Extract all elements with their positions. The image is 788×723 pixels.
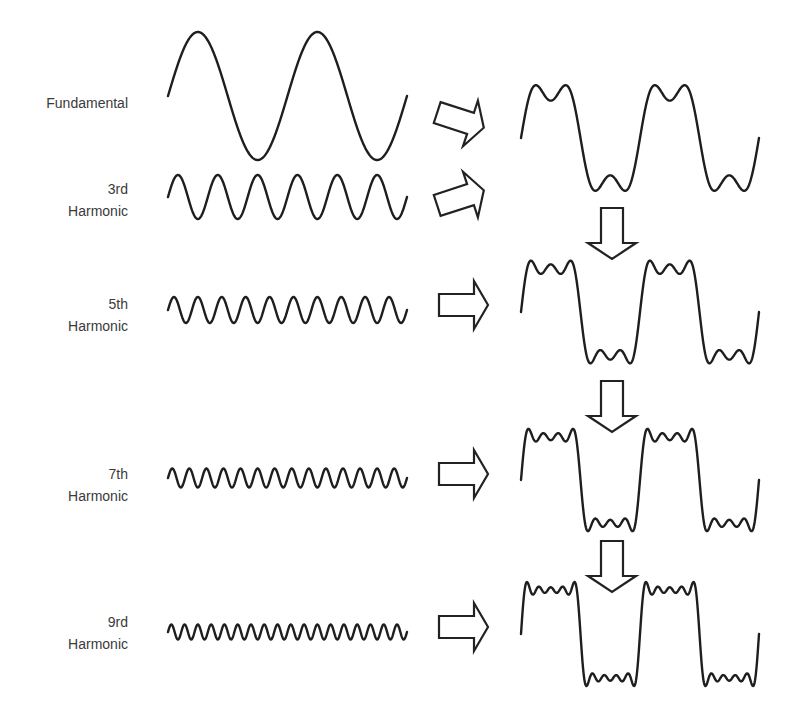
arrow-right-icon <box>434 172 484 218</box>
label-fundamental: Fundamental <box>0 92 128 114</box>
label-7th-harmonic: 7th Harmonic <box>0 463 128 507</box>
label-line: Harmonic <box>0 633 128 655</box>
arrow-right-icon <box>439 281 488 329</box>
label-line: 7th <box>0 463 128 485</box>
label-3rd-harmonic: 3rd Harmonic <box>0 178 128 222</box>
arrow-down-icon <box>588 381 636 432</box>
label-line: Harmonic <box>0 315 128 337</box>
harmonics-diagram: Fundamental 3rd Harmonic 5th Harmonic 7t… <box>0 0 788 723</box>
arrow-down-icon <box>588 208 636 259</box>
label-line: Harmonic <box>0 485 128 507</box>
label-line: 3rd <box>0 178 128 200</box>
fundamental-wave <box>168 32 407 160</box>
arrow-right-icon <box>439 450 488 498</box>
arrow-right-icon <box>434 101 484 147</box>
sum-through-7th-wave <box>521 429 759 531</box>
summed-waves <box>521 85 759 686</box>
arrow-right-icon <box>439 603 488 651</box>
label-5th-harmonic: 5th Harmonic <box>0 293 128 337</box>
harmonic-waves <box>168 32 407 640</box>
label-line: Fundamental <box>0 92 128 114</box>
arrow-down-icon <box>588 541 636 592</box>
sum-through-9th-wave <box>521 582 759 686</box>
arrows <box>434 101 636 651</box>
sum-through-5th-wave <box>521 261 759 364</box>
label-9th-harmonic: 9rd Harmonic <box>0 611 128 655</box>
9th-harmonic-wave <box>168 625 407 640</box>
5th-harmonic-wave <box>168 297 407 323</box>
label-line: 9rd <box>0 611 128 633</box>
sum-fundamental-3rd-wave <box>521 85 759 191</box>
3rd-harmonic-wave <box>168 175 407 219</box>
label-line: Harmonic <box>0 200 128 222</box>
7th-harmonic-wave <box>168 469 407 488</box>
label-line: 5th <box>0 293 128 315</box>
